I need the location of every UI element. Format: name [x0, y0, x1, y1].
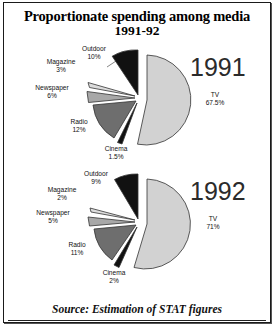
- pie-chart-1991: Outdoor 10% Magazine 3% Newspaper 6% Rad…: [4, 39, 270, 163]
- label-newspaper-1991: Newspaper: [35, 84, 69, 92]
- label-radio-1991: Radio: [70, 118, 88, 125]
- charts-container: Outdoor 10% Magazine 3% Newspaper 6% Rad…: [4, 39, 270, 287]
- label-newspaper-1992: Newspaper: [36, 209, 70, 217]
- leader-lines-1991: [107, 61, 116, 67]
- label-tv-1991: TV: [211, 91, 220, 98]
- value-outdoor-1992: 9%: [91, 178, 101, 185]
- slice-outdoor-1991: [112, 50, 138, 95]
- page-subtitle: 1991-92: [4, 24, 270, 39]
- value-magazine-1992: 2%: [57, 194, 67, 201]
- value-cinema-1992: 2%: [109, 277, 119, 284]
- value-tv-1992: 71%: [206, 223, 219, 230]
- label-magazine-1992: Magazine: [48, 186, 77, 194]
- source-note: Source: Estimation of STAT figures: [52, 303, 222, 315]
- value-newspaper-1992: 5%: [48, 217, 58, 224]
- title-block: Proportionate spending among media 1991-…: [4, 3, 270, 39]
- figure-frame: Proportionate spending among media 1991-…: [3, 2, 271, 323]
- footer-divider: [8, 320, 266, 321]
- pie-chart-1992: Outdoor 9% Magazine 2% Newspaper 5% Radi…: [4, 163, 270, 287]
- footer: Source: Estimation of STAT figures: [4, 299, 270, 317]
- label-cinema-1991: Cinema: [105, 145, 128, 152]
- value-tv-1991: 67.5%: [206, 99, 225, 106]
- value-cinema-1991: 1.5%: [108, 153, 123, 160]
- label-cinema-1992: Cinema: [103, 269, 126, 276]
- label-radio-1992: Radio: [68, 241, 86, 248]
- value-outdoor-1991: 10%: [87, 53, 100, 60]
- label-outdoor-1992: Outdoor: [84, 170, 109, 177]
- year-label-1992: 1992: [190, 179, 246, 204]
- slice-tv-1991: [138, 55, 191, 145]
- value-newspaper-1991: 6%: [47, 92, 57, 99]
- page-title: Proportionate spending among media: [4, 9, 270, 24]
- label-magazine-1991: Magazine: [47, 58, 76, 66]
- slice-tv-1992: [134, 179, 190, 269]
- label-tv-1992: TV: [209, 215, 218, 222]
- slice-outdoor-1992: [115, 174, 139, 219]
- slice-newspaper-1991: [87, 92, 135, 103]
- value-radio-1991: 12%: [72, 126, 85, 133]
- value-radio-1992: 11%: [71, 249, 84, 256]
- value-magazine-1991: 3%: [56, 66, 66, 73]
- label-outdoor-1991: Outdoor: [82, 45, 107, 52]
- year-label-1991: 1991: [190, 55, 246, 80]
